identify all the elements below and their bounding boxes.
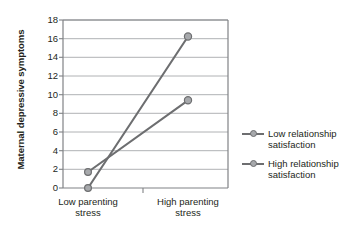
data-point [85,169,92,176]
x-tick-label-high-parenting-stress: High parenting stress [145,196,231,218]
data-point [184,97,191,104]
data-point [184,33,191,40]
legend-label: Low relationship satisfaction [268,128,337,150]
gridlines [63,20,228,169]
series-low-relationship-satisfaction [85,33,192,192]
chart-figure: Maternal depressive symptoms 18 16 14 12… [0,0,354,238]
data-point [85,185,92,192]
axis-frame [63,20,228,188]
legend-item-high-relationship-satisfaction: High relationship satisfaction [242,158,339,180]
x-tick-label-low-parenting-stress: Low parenting stress [45,196,131,218]
series-high-relationship-satisfaction [85,97,192,176]
legend-label: High relationship satisfaction [268,158,339,180]
legend-item-low-relationship-satisfaction: Low relationship satisfaction [242,128,337,150]
legend-marker-icon [242,158,264,169]
legend-marker-icon [242,128,264,139]
